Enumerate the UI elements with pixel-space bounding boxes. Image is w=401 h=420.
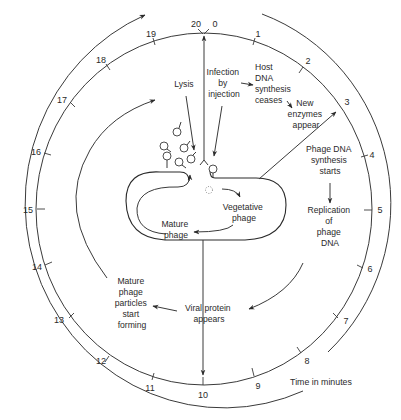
tick-14: 14 — [32, 262, 42, 272]
tick-1: 1 — [255, 29, 260, 39]
tick-19: 19 — [146, 29, 156, 39]
tick-5: 5 — [377, 205, 382, 215]
tick-12: 12 — [96, 356, 106, 366]
tick-18: 18 — [96, 55, 106, 65]
tick-6: 6 — [367, 264, 372, 274]
tick-10: 10 — [198, 390, 208, 400]
vegetative-arrow — [222, 189, 240, 197]
tick-4: 4 — [369, 150, 374, 160]
tick-17: 17 — [57, 95, 67, 105]
label-replication: Replication of phage DNA — [308, 205, 353, 248]
tick-9: 9 — [255, 381, 260, 391]
tick-0: 0 — [212, 19, 217, 29]
tick-15: 15 — [23, 205, 33, 215]
to-mature-arrow — [194, 225, 233, 232]
tick-3: 3 — [344, 97, 349, 107]
tick-13: 13 — [54, 315, 64, 325]
to-lysis-arc — [76, 100, 155, 278]
label-vegetative-phage: Vegetative phage — [223, 202, 266, 223]
phage-dna-icon — [206, 187, 213, 194]
tick-8: 8 — [304, 356, 309, 366]
tick-11: 11 — [145, 383, 154, 393]
infection-arrow — [214, 106, 222, 156]
time-axis-label: Time in minutes — [290, 377, 352, 387]
phage-cycle-diagram: 0 1 2 3 4 5 6 7 8 9 10 11 12 13 14 15 16… — [0, 0, 401, 420]
tick-20: 20 — [191, 19, 201, 29]
label-mature-phage: Mature phage — [161, 219, 190, 240]
label-phage-dna-synthesis: Phage DNA synthesis starts — [306, 144, 354, 176]
label-host-dna: Host DNA synthesis ceases — [255, 62, 293, 105]
label-mature-particles: Mature phage particles start forming — [115, 276, 149, 330]
tick-16: 16 — [31, 147, 41, 157]
label-infection: Infection by injection — [207, 67, 242, 99]
host-arrow — [241, 83, 253, 85]
label-viral-protein: Viral protein appears — [185, 303, 233, 324]
label-lysis: Lysis — [174, 79, 193, 89]
outer-time-arc — [262, 14, 391, 352]
enzymes-arrow — [287, 101, 292, 108]
injecting-phage-icon — [200, 160, 208, 165]
to-particles-arrow — [153, 306, 177, 311]
tick-7: 7 — [343, 316, 348, 326]
lysis-arrow — [186, 96, 194, 150]
to-viral-protein-arrow — [249, 263, 303, 309]
label-new-enzymes: New enzymes appear — [288, 98, 325, 130]
tick-2: 2 — [305, 56, 310, 66]
